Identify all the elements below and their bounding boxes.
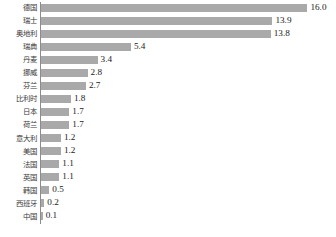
bar: [41, 43, 131, 51]
category-label: 芬兰: [0, 80, 37, 91]
bar: [41, 134, 61, 142]
category-label: 西班牙: [0, 198, 37, 209]
category-label: 美国: [0, 146, 37, 157]
category-label: 韩国: [0, 185, 37, 196]
bar-row: 西班牙0.2: [0, 198, 336, 209]
value-label: 1.7: [72, 106, 83, 117]
bar: [41, 95, 71, 103]
bar-row: 意大利1.2: [0, 133, 336, 144]
bar: [41, 30, 271, 38]
value-label: 3.4: [101, 54, 112, 65]
bar-row: 挪威2.8: [0, 67, 336, 78]
value-label: 1.1: [62, 158, 73, 169]
category-label: 意大利: [0, 133, 37, 144]
bar-row: 中国0.1: [0, 211, 336, 222]
category-label: 英国: [0, 172, 37, 183]
category-label: 瑞士: [0, 15, 37, 26]
value-label: 0.5: [52, 184, 63, 195]
bar-row: 英国1.1: [0, 172, 336, 183]
category-label: 荷兰: [0, 119, 37, 130]
bar-row: 荷兰1.7: [0, 119, 336, 130]
bar-row: 日本1.7: [0, 106, 336, 117]
category-label: 比利时: [0, 93, 37, 104]
value-label: 1.2: [64, 132, 75, 143]
bar: [41, 212, 43, 220]
bar-row: 芬兰2.7: [0, 80, 336, 91]
value-label: 0.1: [46, 210, 57, 221]
bar-row: 德国16.0: [0, 2, 336, 13]
value-label: 0.2: [47, 197, 58, 208]
category-label: 中国: [0, 211, 37, 222]
bar-row: 丹麦3.4: [0, 54, 336, 65]
value-label: 2.7: [89, 80, 100, 91]
bar: [41, 17, 272, 25]
value-label: 16.0: [310, 2, 326, 13]
plot-area: 德国16.0瑞士13.9奥地利13.8瑞典5.4丹麦3.4挪威2.8芬兰2.7比…: [0, 0, 336, 237]
bar: [41, 108, 69, 116]
bar: [41, 121, 69, 129]
category-label: 日本: [0, 106, 37, 117]
bar: [41, 160, 59, 168]
bar: [41, 69, 88, 77]
bar-row: 法国1.1: [0, 159, 336, 170]
category-label: 奥地利: [0, 28, 37, 39]
bar: [41, 56, 98, 64]
value-label: 13.9: [275, 15, 291, 26]
value-label: 1.1: [62, 171, 73, 182]
value-label: 1.7: [72, 119, 83, 130]
bar: [41, 4, 307, 12]
category-label: 法国: [0, 159, 37, 170]
bar-row: 瑞典5.4: [0, 41, 336, 52]
bar: [41, 147, 61, 155]
value-label: 5.4: [134, 41, 145, 52]
value-label: 1.2: [64, 145, 75, 156]
bar: [41, 199, 44, 207]
category-label: 丹麦: [0, 54, 37, 65]
bar: [41, 173, 59, 181]
category-label: 挪威: [0, 67, 37, 78]
bar-row: 比利时1.8: [0, 93, 336, 104]
bar-row: 美国1.2: [0, 146, 336, 157]
bar: [41, 82, 86, 90]
value-label: 13.8: [274, 28, 290, 39]
bar: [41, 186, 49, 194]
category-label: 德国: [0, 2, 37, 13]
horizontal-bar-chart: 德国16.0瑞士13.9奥地利13.8瑞典5.4丹麦3.4挪威2.8芬兰2.7比…: [0, 0, 336, 237]
value-label: 1.8: [74, 93, 85, 104]
category-label: 瑞典: [0, 41, 37, 52]
bar-row: 瑞士13.9: [0, 15, 336, 26]
value-label: 2.8: [91, 67, 102, 78]
bar-row: 奥地利13.8: [0, 28, 336, 39]
bar-row: 韩国0.5: [0, 185, 336, 196]
